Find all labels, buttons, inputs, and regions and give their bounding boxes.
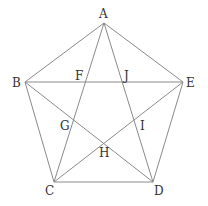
label-J: J: [122, 69, 129, 83]
label-G: G: [60, 119, 70, 133]
label-H: H: [99, 146, 109, 160]
label-A: A: [98, 7, 108, 21]
label-B: B: [12, 76, 21, 90]
label-I: I: [140, 119, 145, 133]
segment-BD: [25, 82, 153, 182]
label-C: C: [45, 184, 54, 198]
segment-AB: [25, 23, 104, 82]
segment-BC: [25, 82, 54, 182]
segment-ED: [153, 82, 183, 182]
label-E: E: [186, 76, 195, 90]
label-D: D: [154, 184, 164, 198]
segment-AC: [54, 23, 104, 182]
segment-EC: [54, 82, 183, 182]
label-F: F: [75, 69, 83, 83]
segment-AD: [104, 23, 153, 182]
pentagram-diagram: A B E C D F J G I H: [0, 0, 208, 206]
segment-AE: [104, 23, 183, 82]
